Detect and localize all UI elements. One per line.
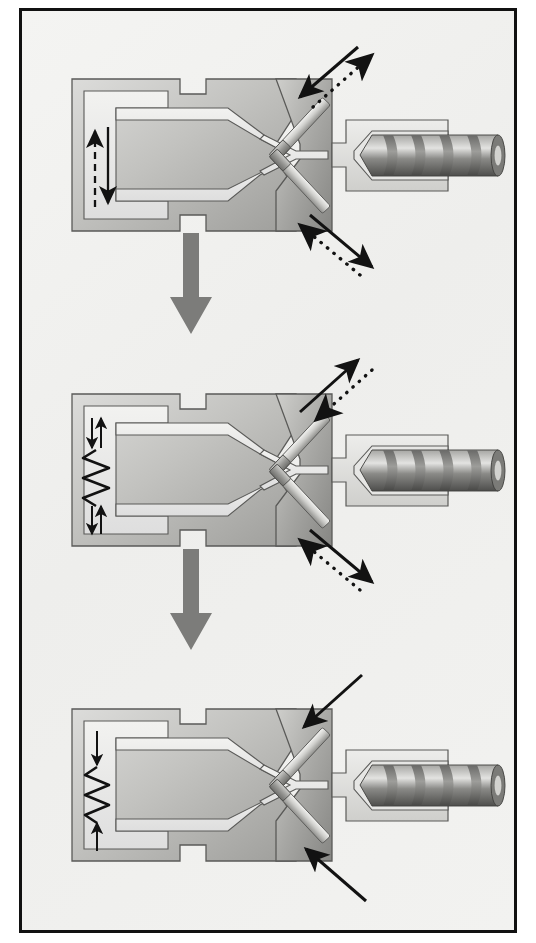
upper-pin-motion-arrows xyxy=(304,675,362,727)
stage-2-illustration xyxy=(28,354,520,604)
transition-arrow-2-to-3 xyxy=(168,549,214,649)
figure-frame xyxy=(19,8,517,933)
lower-solid-arrow-in xyxy=(306,849,366,901)
lower-pin-motion-arrows xyxy=(306,849,366,901)
transition-arrow-shape xyxy=(170,549,212,650)
transition-arrow-1-to-2 xyxy=(168,233,214,333)
mold-body-group xyxy=(72,79,296,231)
stage-1-panel xyxy=(28,39,520,279)
transition-arrow-shape xyxy=(170,233,212,334)
nozzle-barrel-group xyxy=(332,120,505,191)
diagram-page xyxy=(0,0,536,943)
mold-body-group xyxy=(72,709,296,861)
extrusion-screw xyxy=(360,450,505,491)
nozzle-barrel-group xyxy=(332,435,505,506)
stage-3-panel xyxy=(28,669,520,909)
upper-solid-arrow-in xyxy=(304,675,362,727)
stage-1-illustration xyxy=(28,39,520,289)
stage-3-illustration xyxy=(28,669,520,919)
extrusion-screw xyxy=(360,765,505,806)
extrusion-screw xyxy=(360,135,505,176)
nozzle-barrel-group xyxy=(332,750,505,821)
stage-2-panel xyxy=(28,354,520,594)
